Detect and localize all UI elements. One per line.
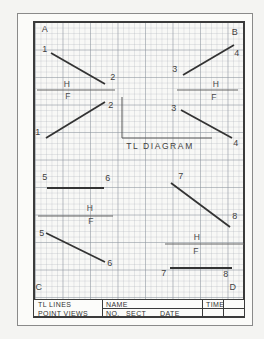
title-block-date-label: DATE bbox=[160, 310, 180, 317]
title-block-project-line2: POINT VIEWS bbox=[38, 310, 88, 317]
title-block-time-label: TIME bbox=[206, 301, 224, 308]
title-block-divider bbox=[102, 308, 244, 309]
graph-paper-area bbox=[33, 21, 245, 318]
title-block-project-line1: TL LINES bbox=[38, 301, 71, 308]
diagram-caption: TL DIAGRAM bbox=[118, 141, 202, 151]
title-block-name-label: NAME bbox=[106, 301, 128, 308]
title-block: TL LINES POINT VIEWS NAME NO. SECT DATE … bbox=[33, 299, 245, 318]
title-block-sect-label: SECT bbox=[126, 310, 146, 317]
drawing-sheet-page: ABCD12HF2134HF3456HF5678HF78 TL DIAGRAM … bbox=[0, 0, 264, 339]
title-block-no-label: NO. bbox=[106, 310, 120, 317]
